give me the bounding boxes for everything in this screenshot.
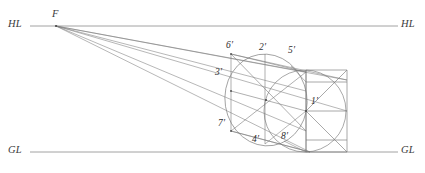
persp-square-diagonal-b [231, 72, 306, 131]
node-dot-vanishing-F [55, 25, 57, 27]
vanishing-ray-to-2p [56, 26, 347, 80]
projector-8p-to-corner [284, 141, 306, 152]
true-circle-spoke-lower-right [306, 111, 335, 140]
point-label-8p: 8′ [281, 132, 288, 142]
gl-label-left: GL [8, 145, 22, 156]
persp-square-median-horizontal [231, 91, 306, 111]
point-label-7p: 7′ [218, 119, 225, 129]
node-dot-circle-center [305, 110, 307, 112]
vanishing-point-label-F: F [52, 9, 59, 20]
vanishing-ray-to-7p [56, 26, 306, 131]
axis-group [30, 26, 398, 152]
point-label-1p: 1′ [311, 97, 318, 107]
hl-label-right: HL [401, 19, 415, 30]
hl-label-left: HL [8, 19, 22, 30]
node-dot-3p [230, 90, 232, 92]
point-label-5p: 5′ [288, 46, 295, 56]
figure-page: HL HL GL GL F 6′ 2′ 5′ 3′ 1′ 7′ 4′ 8′ [0, 0, 425, 173]
projector-bottom-tangent [231, 131, 310, 152]
point-label-3p: 3′ [215, 68, 222, 78]
true-circle-corner-chord-top [335, 70, 347, 82]
point-label-4p: 4′ [252, 135, 259, 145]
node-dot-6p [230, 53, 232, 55]
node-dot-ellipse-center [265, 99, 267, 101]
vanishing-ray-to-3p [56, 26, 306, 91]
point-label-2p: 2′ [259, 43, 266, 53]
node-dot-7p [230, 130, 232, 132]
true-circle-corner-chord-bottom [335, 140, 347, 152]
gl-label-right: GL [401, 145, 415, 156]
vanishing-ray-group [56, 26, 347, 152]
point-label-6p: 6′ [226, 41, 233, 51]
perspective-construction-figure [0, 0, 425, 173]
